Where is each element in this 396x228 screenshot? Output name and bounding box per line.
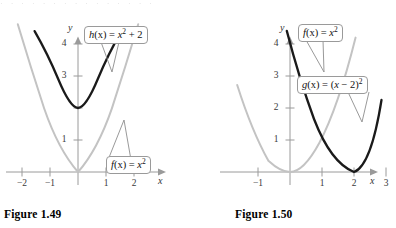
x-tick-label: −2 bbox=[14, 178, 30, 188]
figure-caption: Figure 1.50 bbox=[235, 208, 293, 220]
x-axis-label: x bbox=[370, 175, 374, 186]
y-tick-label: 3 bbox=[58, 70, 70, 80]
y-tick-label: 1 bbox=[270, 134, 282, 144]
callout-f-exponent: 2 bbox=[142, 157, 146, 166]
callout-h-function: h(x) = x2 + 2 bbox=[84, 26, 148, 44]
x-tick-label: −1 bbox=[250, 178, 266, 188]
figure-1-49: x y −2 −1 1 2 1 3 4 h(x) = x2 + 2 f(x) =… bbox=[0, 0, 198, 228]
axes-1-50 bbox=[220, 37, 386, 186]
callout-g-function: g(x) = (x − 2)2 bbox=[297, 76, 368, 94]
callout-f-arg: (x) = bbox=[306, 27, 329, 38]
callout-g-mid: − 2) bbox=[339, 79, 359, 90]
x-tick-label: 3 bbox=[379, 178, 393, 188]
y-tick-label: 3 bbox=[270, 70, 282, 80]
figure-1-50: x y −1 1 2 3 1 2 3 4 f(x) = x2 g(x) = (x… bbox=[198, 0, 396, 228]
callout-f-function: f(x) = x2 bbox=[106, 156, 151, 174]
x-tick-label: 2 bbox=[127, 178, 141, 188]
y-axis-label: y bbox=[68, 22, 72, 33]
curve-f-1-50 bbox=[237, 38, 355, 172]
x-tick-label: 2 bbox=[347, 178, 361, 188]
x-tick-label: 1 bbox=[99, 178, 113, 188]
y-axis-label: y bbox=[280, 22, 284, 33]
figure-page: · · · · · · · · · · · · · · · bbox=[0, 0, 396, 228]
y-tick-label: 2 bbox=[270, 102, 282, 112]
callout-h-arg: (x) = bbox=[94, 29, 117, 40]
y-tick-label: 1 bbox=[58, 134, 70, 144]
curve-g-1-50 bbox=[287, 31, 382, 172]
figure-1-50-plot bbox=[198, 0, 396, 228]
y-tick-label: 4 bbox=[58, 38, 70, 48]
x-tick-label: 1 bbox=[315, 178, 329, 188]
callout-g-arg: (x) = ( bbox=[307, 79, 334, 90]
callout-g-exponent: 2 bbox=[359, 77, 363, 86]
x-axis-label: x bbox=[158, 175, 162, 186]
callout-f-exponent: 2 bbox=[334, 25, 338, 34]
callout-f-arg: (x) = bbox=[114, 159, 137, 170]
x-tick-label: −1 bbox=[42, 178, 58, 188]
figure-caption: Figure 1.49 bbox=[4, 208, 62, 220]
callout-h-tail: + 2 bbox=[126, 29, 142, 40]
callout-f-function: f(x) = x2 bbox=[298, 24, 343, 42]
y-tick-label: 4 bbox=[270, 38, 282, 48]
